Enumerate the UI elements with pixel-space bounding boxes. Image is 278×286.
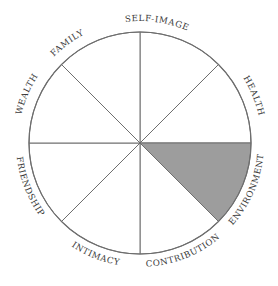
life-wheel-diagram: SELF-IMAGE HEALTH FRIENDSHIP INTIMACY CO…: [0, 0, 278, 286]
wheel-segments: [29, 32, 251, 254]
segment-label-self-image: SELF-IMAGE: [125, 13, 191, 33]
